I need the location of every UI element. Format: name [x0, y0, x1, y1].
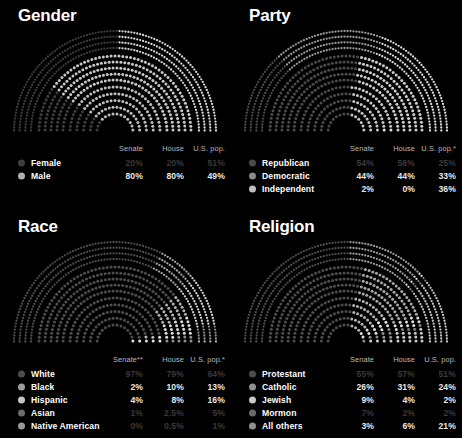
chart-dot — [418, 79, 420, 81]
chart-dot — [169, 53, 171, 55]
chart-dot — [153, 97, 156, 100]
chart-dot — [434, 117, 436, 119]
chart-dot — [150, 43, 152, 45]
chart-dot — [440, 120, 442, 122]
chart-dot — [139, 262, 141, 264]
chart-dot — [184, 313, 187, 316]
chart-dot — [400, 46, 402, 48]
chart-dot — [445, 328, 447, 330]
chart-dot — [164, 314, 167, 317]
chart-dot — [56, 102, 59, 105]
chart-dot — [414, 121, 417, 124]
chart-dot — [48, 70, 50, 72]
chart-dot — [365, 281, 368, 284]
chart-dot — [279, 79, 281, 81]
chart-dot — [134, 91, 137, 94]
chart-dot — [139, 244, 141, 246]
chart-dot — [204, 86, 206, 88]
chart-dot — [277, 306, 280, 309]
chart-dot — [144, 272, 147, 275]
chart-dot — [411, 79, 413, 81]
chart-dot — [373, 34, 375, 36]
chart-dot — [83, 107, 86, 110]
chart-dot — [432, 112, 434, 114]
chart-dot — [393, 310, 396, 313]
chart-dot — [121, 30, 123, 32]
chart-dot — [93, 91, 96, 94]
chart-dot — [156, 286, 159, 289]
chart-dot — [346, 247, 348, 249]
chart-dot — [171, 272, 173, 274]
chart-dot — [274, 67, 276, 69]
chart-dot — [303, 90, 306, 93]
chart-dot — [396, 340, 399, 343]
chart-dot — [390, 251, 392, 253]
chart-dot — [378, 311, 381, 314]
chart-dot — [343, 47, 345, 49]
chart-dot — [81, 321, 84, 324]
chart-dot — [76, 125, 79, 128]
chart-dot — [350, 317, 353, 320]
chart-dot — [282, 262, 284, 264]
chart-dot — [396, 129, 399, 132]
chart-dot — [31, 295, 33, 297]
chart-dot — [404, 274, 406, 276]
chart-dot — [279, 91, 282, 94]
chart-dot — [89, 321, 92, 324]
chart-dot — [151, 121, 154, 124]
chart-dot — [42, 59, 44, 61]
chart-dot — [386, 311, 389, 314]
chart-dot — [266, 300, 268, 302]
chart-dot — [250, 331, 252, 333]
chart-dot — [373, 73, 376, 76]
chart-dot — [280, 53, 282, 55]
chart-dot — [134, 83, 137, 86]
chart-dot — [326, 325, 329, 328]
chart-dot — [60, 76, 63, 79]
chart-dot — [206, 317, 208, 319]
chart-dot — [270, 303, 272, 305]
chart-dot — [438, 320, 440, 322]
chart-dot — [119, 325, 122, 328]
chart-dot — [83, 318, 86, 321]
chart-dot — [285, 50, 287, 52]
chart-dot — [60, 85, 63, 88]
chart-dot — [181, 55, 183, 57]
chart-dot — [250, 308, 252, 310]
chart-dot — [51, 117, 54, 120]
chart-dot — [127, 48, 129, 50]
chart-dot — [434, 308, 436, 310]
chart-dot — [364, 268, 367, 271]
chart-dot — [245, 117, 247, 119]
chart-dot — [182, 293, 184, 295]
chart-dot — [17, 314, 19, 316]
chart-dot — [198, 123, 200, 125]
chart-dot — [41, 89, 43, 91]
chart-dot — [133, 268, 136, 271]
chart-dot — [355, 247, 357, 249]
chart-dot — [51, 51, 53, 53]
chart-dot — [308, 49, 310, 51]
chart-dot — [165, 332, 168, 335]
chart-dot — [263, 323, 265, 325]
chart-dot — [318, 290, 321, 293]
chart-dot — [317, 251, 319, 253]
chart-dot — [363, 105, 366, 108]
chart-dot — [130, 31, 132, 33]
chart-dot — [402, 61, 404, 63]
table-cell-value: 4% — [374, 393, 415, 406]
chart-dot — [376, 47, 378, 49]
chart-dot — [48, 273, 50, 275]
chart-dot — [201, 303, 203, 305]
chart-dot — [54, 261, 56, 263]
chart-dot — [269, 285, 271, 287]
chart-dot — [60, 296, 63, 299]
chart-dot — [69, 340, 72, 343]
chart-dot — [395, 43, 397, 45]
chart-dot — [357, 109, 360, 112]
chart-dot — [36, 86, 38, 88]
chart-dot — [371, 59, 374, 62]
chart-dot — [379, 288, 382, 291]
chart-dot — [189, 64, 191, 66]
chart-dot — [392, 48, 394, 50]
